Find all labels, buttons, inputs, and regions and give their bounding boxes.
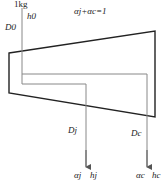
enthalpy-h0-label: h0	[27, 12, 36, 21]
flow-dc-label: Dc	[131, 129, 142, 138]
diagram-canvas	[0, 0, 164, 180]
enthalpy-j-label: hj	[90, 171, 97, 180]
flow-d0-label: D0	[5, 23, 16, 32]
flow-dj-label: Dj	[68, 126, 77, 135]
mass-label: 1kg	[14, 0, 28, 9]
fraction-c-label: αc	[136, 171, 145, 180]
balance-equation: αj+αc=1	[74, 7, 107, 16]
fraction-j-label: αj	[74, 171, 81, 180]
enthalpy-c-label: hc	[152, 171, 161, 180]
flow-path-c	[22, 74, 147, 166]
